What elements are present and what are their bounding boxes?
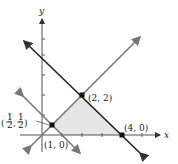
vertex-half-half [50,123,55,128]
feasible-region-diagram: y x (2, 2) (4, 0) (1, 0) ( 1 2 , 1 2 ) [0,0,178,164]
point-label-4-0: (4, 0) [124,123,148,133]
svg-text:): ) [24,118,28,128]
svg-text:2: 2 [7,120,13,130]
svg-text:(: ( [1,118,5,128]
x-axis-label: x [164,130,169,140]
svg-text:,: , [13,118,16,128]
y-axis-label: y [38,6,45,16]
point-label-2-2: (2, 2) [88,93,112,103]
vertex-2-2 [80,93,85,98]
point-label-1-0: (1, 0) [44,140,68,150]
point-label-half-half: ( 1 2 , 1 2 ) [1,112,28,130]
svg-text:2: 2 [18,120,24,130]
vertex-4-0 [120,133,125,138]
